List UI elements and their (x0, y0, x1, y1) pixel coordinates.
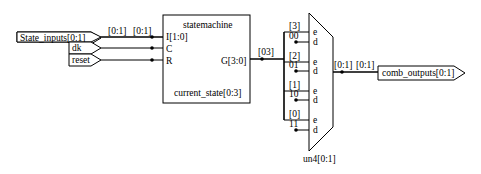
junction-dot (340, 70, 344, 74)
pin-G: G[3:0] (221, 56, 246, 66)
input-port-dk[interactable]: dk (69, 42, 101, 54)
instance-name: current_state[0:3] (174, 88, 242, 98)
output-bus[interactable]: [0:1] [0:1] (333, 60, 378, 74)
const-label: 10 (289, 89, 299, 99)
instance-name: un4[0:1] (303, 154, 336, 164)
statemachine-block[interactable]: statemachine I[1:0] C R G[3:0] current_s… (163, 15, 250, 103)
port-label: State_inputs[0:1] (20, 33, 85, 43)
pin-I: I[1:0] (166, 32, 188, 42)
junction-dot (260, 57, 264, 61)
const-label: 01 (289, 60, 299, 70)
mux-block[interactable]: e d e d e d e d un4[0:1] (303, 13, 336, 164)
bit-label: [3] (289, 21, 300, 31)
junction-dot (150, 46, 154, 50)
input-wires: [0:1] [0:1] (101, 26, 163, 62)
g-bus[interactable]: [03] (250, 32, 284, 120)
bus-label: [03] (258, 47, 274, 57)
pin-d: d (313, 66, 318, 76)
bus-label: [0:1] (334, 60, 352, 70)
port-label: comb_outputs[0:1] (382, 68, 454, 78)
pin-R: R (166, 56, 173, 66)
bit-label: [0] (289, 109, 300, 119)
pin-C: C (166, 44, 172, 54)
port-label: dk (72, 43, 82, 53)
bus-label: [0:1] (356, 60, 374, 70)
pin-d: d (313, 37, 318, 47)
block-title: statemachine (183, 20, 233, 30)
output-port-comb-outputs[interactable]: comb_outputs[0:1] (378, 66, 465, 80)
pin-d: d (313, 95, 318, 105)
pin-d: d (313, 125, 318, 135)
const-label: 00 (289, 31, 299, 41)
port-label: reset (72, 55, 90, 65)
pin-e: e (313, 27, 317, 37)
schematic-canvas: State_inputs[0:1] dk reset [0:1] [0:1] s… (0, 0, 481, 174)
bus-label: [0:1] (108, 26, 126, 36)
const-label: 11 (289, 119, 298, 129)
bus-label: [0:1] (133, 26, 151, 36)
junction-dot (150, 58, 154, 62)
input-port-reset[interactable]: reset (69, 54, 101, 66)
pin-e: e (313, 115, 317, 125)
